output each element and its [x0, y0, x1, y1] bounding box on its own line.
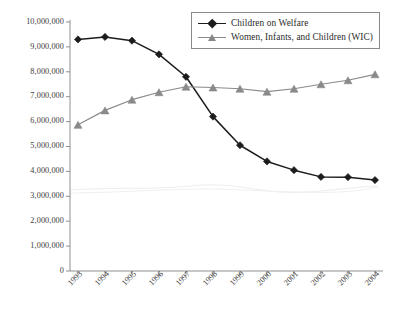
legend-swatch-welfare	[197, 17, 227, 29]
diamond-marker-icon	[208, 19, 217, 28]
x-tick-label: 1994	[93, 269, 111, 287]
legend-item-wic[interactable]: Women, Infants, and Children (WIC)	[197, 30, 373, 44]
legend-item-children-on-welfare[interactable]: Children on Welfare	[197, 16, 373, 30]
legend: Children on Welfare Women, Infants, and …	[191, 12, 380, 49]
legend-label-wic: Women, Infants, and Children (WIC)	[231, 32, 373, 43]
x-tick-label: 1995	[120, 269, 138, 287]
x-tick-label: 1996	[147, 269, 165, 287]
x-tick-label: 2004	[363, 269, 381, 287]
x-tick-label: 1998	[201, 269, 219, 287]
legend-swatch-wic	[197, 31, 227, 43]
x-tick-label: 2000	[255, 269, 273, 287]
legend-label-welfare: Children on Welfare	[231, 18, 308, 29]
x-tick-label: 1999	[228, 269, 246, 287]
triangle-marker-icon	[208, 34, 216, 41]
x-tick-label: 2001	[282, 269, 300, 287]
x-tick-label: 1993	[66, 269, 84, 287]
x-tick-label: 2002	[309, 269, 327, 287]
x-tick-label: 2003	[336, 269, 354, 287]
x-tick-label: 1997	[174, 269, 192, 287]
line-chart: 10,000,0009,000,0008,000,0007,000,0006,0…	[0, 0, 413, 311]
